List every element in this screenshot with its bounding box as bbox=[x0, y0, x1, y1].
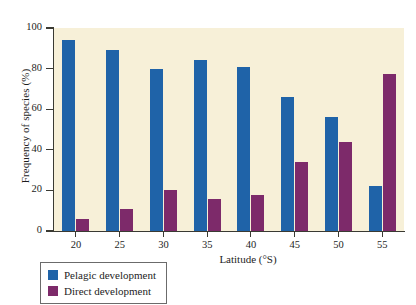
bar-pelagic-40 bbox=[237, 67, 250, 231]
bar-pelagic-20 bbox=[62, 40, 75, 231]
x-tick bbox=[382, 231, 383, 237]
chart-legend: Pelagic development Direct development bbox=[40, 262, 167, 304]
x-tick-label: 45 bbox=[280, 239, 310, 250]
x-tick bbox=[75, 231, 76, 237]
bar-pelagic-35 bbox=[194, 60, 207, 231]
x-axis-label-text: Latitude (°S) bbox=[219, 253, 276, 265]
x-tick bbox=[207, 231, 208, 237]
x-tick bbox=[250, 231, 251, 237]
x-tick-label: 35 bbox=[192, 239, 222, 250]
x-tick-label: 30 bbox=[148, 239, 178, 250]
bar-pelagic-50 bbox=[325, 117, 338, 231]
y-tick-label: 40 bbox=[32, 144, 43, 154]
y-tick bbox=[46, 27, 54, 28]
x-tick-label: 20 bbox=[61, 239, 91, 250]
bar-pelagic-30 bbox=[150, 69, 163, 231]
legend-swatch-pelagic-icon bbox=[48, 270, 58, 280]
y-tick-label: 20 bbox=[32, 184, 43, 194]
bar-pelagic-25 bbox=[106, 50, 119, 231]
legend-label-direct: Direct development bbox=[64, 285, 151, 297]
bars-layer bbox=[54, 28, 404, 231]
y-tick-label: 0 bbox=[37, 225, 42, 235]
x-tick bbox=[163, 231, 164, 237]
bar-direct-45 bbox=[295, 162, 308, 231]
bar-pelagic-55 bbox=[369, 186, 382, 231]
x-tick-label: 50 bbox=[323, 239, 353, 250]
y-tick bbox=[46, 109, 54, 110]
bar-pelagic-45 bbox=[281, 97, 294, 231]
x-tick-label: 40 bbox=[236, 239, 266, 250]
y-tick-label: 80 bbox=[32, 63, 43, 73]
legend-item-pelagic: Pelagic development bbox=[48, 267, 156, 283]
y-tick bbox=[46, 190, 54, 191]
x-tick-label: 25 bbox=[105, 239, 135, 250]
y-tick-label: 60 bbox=[32, 103, 43, 113]
x-tick-label: 55 bbox=[367, 239, 397, 250]
bar-direct-40 bbox=[251, 195, 264, 231]
y-tick bbox=[46, 230, 54, 231]
bar-direct-55 bbox=[383, 74, 396, 231]
bar-direct-25 bbox=[120, 209, 133, 231]
x-tick bbox=[338, 231, 339, 237]
bar-direct-35 bbox=[208, 199, 221, 231]
y-tick bbox=[46, 149, 54, 150]
legend-item-direct: Direct development bbox=[48, 283, 156, 299]
bar-direct-50 bbox=[339, 142, 352, 231]
x-tick bbox=[294, 231, 295, 237]
x-axis-line bbox=[53, 231, 405, 232]
bar-direct-30 bbox=[164, 190, 177, 231]
bar-direct-20 bbox=[76, 219, 89, 231]
y-tick bbox=[46, 68, 54, 69]
bar-chart-figure: 020406080100 2025303540455055 Frequency … bbox=[0, 0, 416, 305]
legend-label-pelagic: Pelagic development bbox=[64, 269, 156, 281]
x-tick bbox=[119, 231, 120, 237]
legend-swatch-direct-icon bbox=[48, 286, 58, 296]
y-axis-label: Frequency of species (%) bbox=[19, 31, 31, 221]
